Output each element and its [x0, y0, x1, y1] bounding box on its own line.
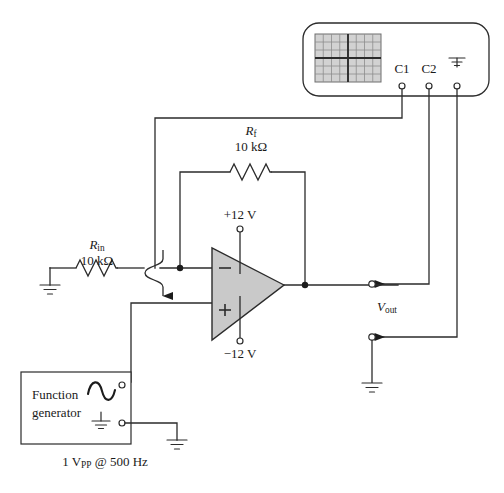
input-ground-icon — [40, 285, 60, 294]
resistor-rin-value: 10 kΩ — [81, 254, 113, 269]
oscilloscope-screen[interactable] — [315, 34, 381, 82]
resistor-rf-symbol — [230, 164, 272, 180]
resistor-rf-value: 10 kΩ — [235, 140, 267, 155]
resistor-rin-symbol-text: R — [89, 237, 97, 252]
function-generator-title-line1: Function — [32, 386, 78, 405]
op-amp-symbol[interactable] — [212, 248, 284, 340]
funcgen-return-ground-icon — [167, 440, 187, 449]
wire-c1-to-inverting-node — [155, 89, 402, 268]
caption-separator: @ — [91, 454, 109, 469]
resistor-rf-subscript: f — [253, 129, 256, 139]
resistor-rf-symbol-text: R — [245, 123, 253, 138]
vout-terminal — [369, 281, 375, 287]
resistor-rin-subscript: in — [97, 243, 104, 253]
wire-crossover-hop — [145, 250, 163, 296]
output-label: Vout — [377, 300, 397, 316]
supply-positive-label: +12 V — [224, 208, 257, 223]
scope-terminal-c2-label: C2 — [421, 62, 436, 77]
resistor-rf-label: Rf — [245, 124, 256, 140]
vout-ground-terminal — [369, 334, 375, 340]
scope-terminal-c1-label: C1 — [394, 62, 409, 77]
input-branch — [50, 268, 212, 285]
wire-funcgen-ground-return — [125, 423, 177, 440]
junction-output-node — [302, 282, 308, 288]
output-subscript: out — [385, 305, 397, 315]
vout-ground-icon — [362, 383, 382, 392]
circuit-diagram-figure: C1 C2 Rf 10 kΩ Rin 10 kΩ +12 V −12 V Vou… — [0, 0, 504, 493]
supply-negative-label: −12 V — [224, 347, 257, 362]
measurement-terminals[interactable] — [369, 281, 375, 340]
function-generator-title-line2: generator — [32, 404, 81, 423]
junction-inverting-node — [177, 265, 183, 271]
caption-amplitude-subscript: PP — [81, 460, 91, 470]
resistor-rin-label: Rin — [89, 238, 104, 254]
wire-funcgen-to-noninverting — [131, 303, 212, 382]
caption-frequency: 500 Hz — [110, 454, 148, 469]
output-symbol-text: V — [377, 299, 385, 314]
caption-amplitude: 1 V — [62, 454, 81, 469]
function-generator-caption: 1 VPP @ 500 Hz — [62, 455, 148, 471]
